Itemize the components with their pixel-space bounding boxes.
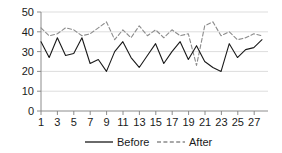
x-tick-label-23: 23 [215, 116, 227, 128]
chart-plot-area: 50 40 30 20 10 0 1 3 5 7 [0, 0, 282, 153]
line-chart: 50 40 30 20 10 0 1 3 5 7 [0, 0, 282, 153]
y-tick-label-10: 10 [22, 85, 34, 97]
x-tick-label-9: 9 [104, 116, 110, 128]
x-tick-label-7: 7 [87, 116, 93, 128]
y-axis: 50 40 30 20 10 0 [22, 6, 41, 117]
chart-legend: Before After [85, 136, 213, 148]
data-series [41, 22, 262, 72]
x-tick-label-13: 13 [133, 116, 145, 128]
x-tick-label-5: 5 [71, 116, 77, 128]
y-tick-label-0: 0 [28, 105, 34, 117]
x-tick-label-19: 19 [182, 116, 194, 128]
y-tick-label-20: 20 [22, 65, 34, 77]
x-tick-label-25: 25 [232, 116, 244, 128]
x-tick-label-1: 1 [38, 116, 44, 128]
y-tick-label-50: 50 [22, 6, 34, 18]
legend-label-after: After [189, 136, 213, 148]
x-tick-label-15: 15 [150, 116, 162, 128]
x-tick-label-27: 27 [248, 116, 260, 128]
series-line-before [41, 38, 262, 72]
x-tick-label-3: 3 [54, 116, 60, 128]
legend-label-before: Before [117, 136, 149, 148]
x-tick-label-11: 11 [117, 116, 128, 128]
x-tick-label-17: 17 [166, 116, 178, 128]
x-tick-label-21: 21 [199, 116, 211, 128]
y-tick-label-30: 30 [22, 46, 34, 58]
x-axis: 1 3 5 7 9 11 13 15 17 19 21 23 25 27 [38, 111, 268, 128]
y-tick-label-40: 40 [22, 26, 34, 38]
